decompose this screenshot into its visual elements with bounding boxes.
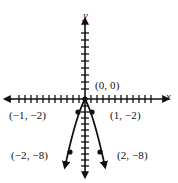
point-label-2-neg8: (2, −8) bbox=[117, 150, 148, 161]
point-origin bbox=[82, 96, 87, 101]
y-axis-label: y bbox=[83, 10, 88, 21]
x-axis-label: x bbox=[166, 91, 171, 102]
point-label-1-neg2: (1, −2) bbox=[110, 110, 141, 121]
point-neg1-neg2 bbox=[75, 109, 80, 114]
point-label-neg2-neg8: (−2, −8) bbox=[11, 150, 48, 161]
parabola-figure: (0, 0) (−1, −2) (1, −2) (−2, −8) (2, −8)… bbox=[0, 0, 178, 183]
point-label-origin: (0, 0) bbox=[95, 80, 119, 91]
point-neg2-neg8 bbox=[67, 149, 72, 154]
point-1-neg2 bbox=[89, 109, 94, 114]
point-label-neg1-neg2: (−1, −2) bbox=[9, 110, 46, 121]
point-2-neg8 bbox=[97, 149, 102, 154]
